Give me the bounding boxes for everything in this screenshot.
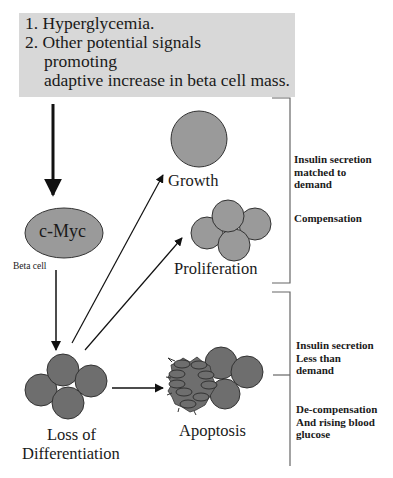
loss-label-line2: Differentiation bbox=[22, 444, 120, 464]
upper-insulin-text: Insulin secretion matched to demand bbox=[294, 153, 372, 191]
cmyc-label: c-Myc bbox=[39, 221, 86, 242]
decompensation-line2: And rising blood bbox=[296, 416, 377, 429]
decompensation-text: De-compensation And rising blood glucose bbox=[296, 403, 377, 441]
lower-line2: Less than bbox=[296, 352, 374, 365]
bracket-decompensation bbox=[272, 292, 290, 466]
upper-line1: Insulin secretion bbox=[294, 153, 372, 166]
bracket-compensation bbox=[272, 98, 290, 283]
compensation-label: Compensation bbox=[294, 212, 362, 225]
arrow-to-proliferation bbox=[85, 238, 182, 350]
proliferation-cluster bbox=[191, 200, 271, 261]
proliferation-label: Proliferation bbox=[174, 259, 257, 279]
growth-cell bbox=[171, 111, 227, 167]
upper-line2: matched to bbox=[294, 166, 372, 179]
lower-line1: Insulin secretion bbox=[296, 339, 374, 352]
growth-label: Growth bbox=[168, 171, 218, 191]
loss-of-differentiation-cluster bbox=[25, 354, 107, 419]
apoptosis-cluster bbox=[166, 347, 263, 415]
decompensation-line1: De-compensation bbox=[296, 403, 377, 416]
arrow-to-growth bbox=[72, 175, 163, 343]
loss-label-line1: Loss of bbox=[47, 425, 96, 445]
lower-line3: demand bbox=[296, 364, 374, 377]
decompensation-line3: glucose bbox=[296, 428, 377, 441]
lower-insulin-text: Insulin secretion Less than demand bbox=[296, 339, 374, 377]
apoptosis-label: Apoptosis bbox=[179, 421, 246, 441]
upper-line3: demand bbox=[294, 178, 372, 191]
beta-cell-label: Beta cell bbox=[13, 261, 47, 271]
